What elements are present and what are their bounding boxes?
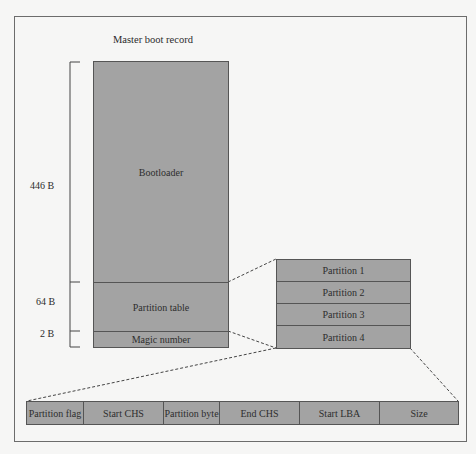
field-start-lba: Start LBA xyxy=(299,401,380,425)
mbr-bootloader: Bootloader xyxy=(93,61,229,283)
mbr-magic-number: Magic number xyxy=(93,331,229,348)
partition-3: Partition 3 xyxy=(276,303,411,326)
field-partition-byte: Partition byte xyxy=(163,401,220,425)
partition-2: Partition 2 xyxy=(276,281,411,304)
field-end-chs: End CHS xyxy=(219,401,300,425)
partition-1: Partition 1 xyxy=(276,259,411,282)
size-label-magic-number: 2 B xyxy=(40,328,54,339)
mbr-partition-table: Partition table xyxy=(93,282,229,332)
size-label-bootloader: 446 B xyxy=(30,180,54,191)
size-label-partition-table: 64 B xyxy=(36,296,55,307)
field-start-chs: Start CHS xyxy=(83,401,164,425)
partition-4: Partition 4 xyxy=(276,325,411,349)
connector-lines xyxy=(0,0,476,454)
field-partition-flag: Partition flag xyxy=(26,401,84,425)
field-size: Size xyxy=(379,401,459,425)
